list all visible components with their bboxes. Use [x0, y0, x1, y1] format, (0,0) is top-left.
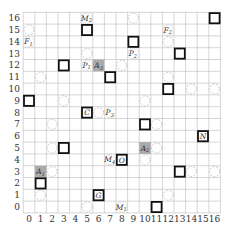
dashed-circle: [47, 143, 57, 153]
bold-square: [24, 96, 34, 106]
y-tick-label: 12: [9, 60, 20, 70]
dashed-circle: [140, 155, 150, 165]
dashed-circle: [163, 72, 173, 82]
dashed-circle: [36, 72, 46, 82]
dashed-circle: [152, 143, 162, 153]
y-tick-label: 11: [9, 72, 20, 82]
x-tick-label: 16: [209, 214, 221, 224]
dashed-circle: [186, 84, 196, 94]
x-axis-ticks: 012345678910111213141516: [26, 214, 220, 224]
dashed-circle: [163, 37, 173, 47]
dashed-circle: [140, 96, 150, 106]
bold-squares: CNOG: [24, 13, 220, 212]
x-tick-label: 8: [119, 214, 125, 224]
x-tick-label: 7: [107, 214, 113, 224]
y-tick-label: 8: [14, 108, 20, 118]
x-tick-label: 9: [131, 214, 137, 224]
dashed-circle: [47, 119, 57, 129]
dashed-circle: [128, 13, 138, 23]
x-tick-label: 11: [151, 214, 162, 224]
bold-square: [59, 60, 69, 70]
grid-lines: [23, 12, 220, 213]
y-tick-label: 2: [14, 178, 20, 188]
bold-square: [175, 49, 185, 59]
y-tick-label: 0: [14, 202, 20, 212]
y-tick-label: 6: [14, 131, 20, 141]
dashed-circle: [82, 49, 92, 59]
dashed-circle: [36, 190, 46, 200]
x-tick-label: 4: [73, 214, 79, 224]
y-tick-label: 15: [9, 25, 21, 35]
y-tick-label: 3: [14, 167, 20, 177]
grid-diagram: A3A1A2 CNOG M2F1F2P2P1P3M4M1 01234567891…: [0, 0, 231, 236]
bold-square: [36, 178, 46, 188]
dashed-circle: [47, 167, 57, 177]
x-tick-label: 5: [84, 214, 90, 224]
x-tick-label: 6: [96, 214, 102, 224]
x-tick-label: 12: [162, 214, 173, 224]
dashed-circle: [24, 25, 34, 35]
bold-square: [163, 84, 173, 94]
bold-square: [210, 13, 220, 23]
x-tick-label: 3: [61, 214, 67, 224]
bold-square: [105, 72, 115, 82]
y-tick-label: 13: [9, 49, 21, 59]
square-label: G: [96, 191, 102, 200]
bold-square: [82, 25, 92, 35]
bold-square: [175, 167, 185, 177]
dashed-circle: [94, 108, 104, 118]
dashed-circles: [24, 13, 220, 212]
x-tick-label: 0: [26, 214, 32, 224]
y-tick-label: 10: [9, 84, 21, 94]
bold-square: [59, 143, 69, 153]
x-tick-label: 10: [139, 214, 151, 224]
y-tick-label: 5: [14, 143, 20, 153]
y-tick-label: 14: [9, 37, 21, 47]
square-label: C: [84, 108, 90, 117]
dashed-circle: [163, 190, 173, 200]
dashed-circle: [210, 84, 220, 94]
bold-square: [128, 37, 138, 47]
x-tick-label: 15: [197, 214, 209, 224]
dashed-circle: [59, 96, 69, 106]
y-tick-label: 9: [14, 96, 20, 106]
y-axis-ticks: 012345678910111213141516: [9, 13, 21, 212]
y-tick-label: 16: [9, 13, 21, 23]
dashed-circle: [186, 167, 196, 177]
bold-square: [140, 119, 150, 129]
dashed-circle: [152, 119, 162, 129]
bold-square: [152, 202, 162, 212]
dashed-circle: [82, 202, 92, 212]
y-tick-label: 4: [14, 155, 20, 165]
x-tick-label: 13: [174, 214, 186, 224]
square-label: N: [199, 132, 207, 141]
square-label: O: [119, 156, 125, 165]
y-tick-label: 7: [14, 119, 20, 129]
x-tick-label: 14: [186, 214, 198, 224]
y-tick-label: 1: [14, 190, 20, 200]
dashed-circle: [117, 60, 127, 70]
x-tick-label: 1: [38, 214, 44, 224]
dashed-circle: [210, 167, 220, 177]
x-tick-label: 2: [49, 214, 55, 224]
